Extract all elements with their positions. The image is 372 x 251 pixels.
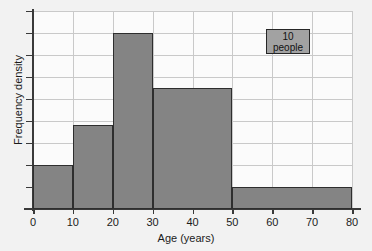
x-tick-label: 60 bbox=[266, 216, 278, 228]
histogram-bar bbox=[153, 88, 233, 209]
y-tick-mark bbox=[26, 55, 32, 56]
y-tick-mark bbox=[26, 77, 32, 78]
x-tick-mark bbox=[153, 209, 155, 214]
x-tick-mark bbox=[193, 209, 195, 214]
x-tick-mark bbox=[312, 209, 314, 214]
y-tick-mark bbox=[26, 33, 32, 34]
x-tick-label: 30 bbox=[147, 216, 159, 228]
x-tick-label: 50 bbox=[226, 216, 238, 228]
legend-key-box: 10 people bbox=[266, 29, 310, 54]
gridline-vertical bbox=[352, 11, 353, 209]
y-tick-mark bbox=[26, 165, 32, 166]
y-tick-mark bbox=[26, 11, 32, 12]
y-axis-label: Frequency density bbox=[12, 30, 24, 170]
histogram-bar bbox=[232, 187, 352, 209]
x-tick-mark bbox=[113, 209, 115, 214]
gridline-vertical bbox=[312, 11, 313, 209]
histogram-figure: 01020304050607080 Age (years) Frequency … bbox=[0, 0, 372, 251]
x-tick-mark bbox=[232, 209, 234, 214]
x-tick-label: 40 bbox=[186, 216, 198, 228]
x-tick-mark bbox=[73, 209, 75, 214]
x-tick-label: 80 bbox=[346, 216, 358, 228]
gridline-vertical bbox=[232, 11, 233, 209]
x-tick-label: 0 bbox=[30, 216, 36, 228]
x-tick-label: 10 bbox=[67, 216, 79, 228]
x-tick-mark bbox=[272, 209, 274, 214]
y-tick-mark bbox=[26, 187, 32, 188]
x-tick-label: 20 bbox=[107, 216, 119, 228]
histogram-bar bbox=[73, 125, 113, 209]
y-tick-mark bbox=[26, 143, 32, 144]
legend-unit: people bbox=[273, 42, 303, 53]
x-tick-label: 70 bbox=[306, 216, 318, 228]
x-tick-mark bbox=[352, 209, 354, 214]
x-tick-mark bbox=[33, 209, 35, 214]
y-tick-mark bbox=[26, 99, 32, 100]
x-axis-label: Age (years) bbox=[0, 232, 372, 244]
histogram-bar bbox=[113, 33, 153, 209]
histogram-bar bbox=[33, 165, 73, 209]
legend-value: 10 bbox=[282, 31, 293, 42]
y-tick-mark bbox=[26, 121, 32, 122]
top-clipped-text bbox=[0, 0, 372, 7]
